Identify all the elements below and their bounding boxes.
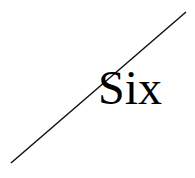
image-canvas: Six — [0, 0, 195, 178]
word-label: Six — [98, 64, 162, 112]
